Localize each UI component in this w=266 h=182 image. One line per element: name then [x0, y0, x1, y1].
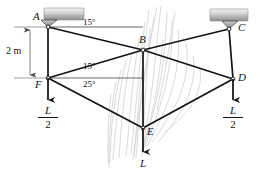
member-CD [229, 29, 233, 79]
scan-artifact-strands [108, 6, 201, 168]
load-e-numerator: L [133, 158, 153, 169]
load-d-denominator: 2 [223, 119, 243, 130]
member-ED [143, 79, 233, 128]
node-label-c: C [238, 22, 245, 33]
load-f-numerator: L [38, 105, 58, 116]
load-d-numerator: L [223, 105, 243, 116]
load-label-d: L 2 [223, 105, 243, 130]
angle-label-fe: 25° [83, 80, 96, 89]
dimension-label-2m: 2 m [6, 46, 21, 56]
node-label-b: B [139, 34, 146, 45]
node-label-f: F [35, 79, 42, 90]
member-AB [48, 27, 143, 50]
truss-diagram [0, 0, 266, 182]
support-a [41, 8, 84, 27]
node-label-d: D [238, 72, 246, 83]
node-label-a: A [33, 11, 40, 22]
angle-label-ab: 15° [83, 18, 96, 27]
member-BC [143, 29, 229, 50]
load-label-e: L [133, 158, 153, 169]
angle-label-fb: 15° [83, 62, 96, 71]
load-label-f: L 2 [38, 105, 58, 130]
load-arrows [48, 78, 233, 152]
node-label-e: E [147, 126, 154, 137]
member-BD [143, 50, 233, 79]
load-f-denominator: 2 [38, 119, 58, 130]
